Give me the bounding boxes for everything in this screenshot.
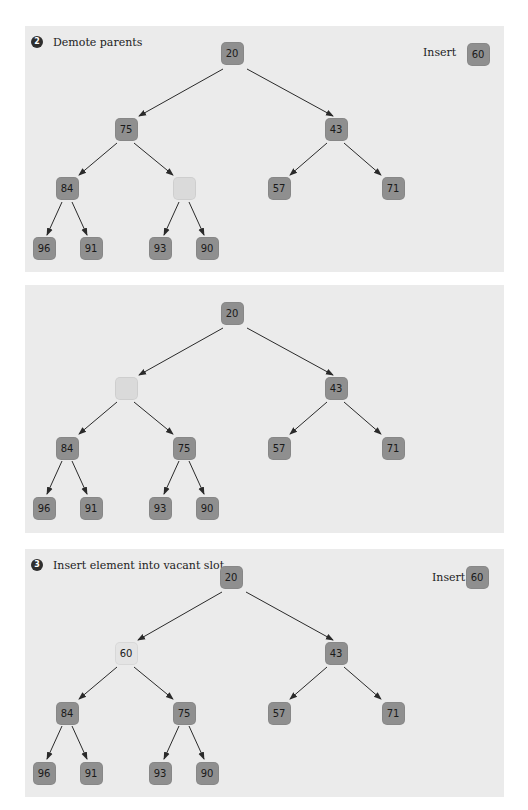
tree-node-l3-c: 93 (149, 237, 172, 260)
vacant-slot (173, 177, 196, 200)
tree-node-l3-a: 96 (33, 497, 56, 520)
tree-node-l3-b: 91 (80, 237, 103, 260)
tree-node-l2-d: 71 (382, 177, 405, 200)
tree-node-l1-right: 43 (325, 377, 348, 400)
tree-node-l3-d: 90 (196, 762, 219, 785)
step-number-badge: 3 (31, 559, 43, 571)
tree-node-l3-c: 93 (149, 497, 172, 520)
tree-node-l2-c: 57 (268, 702, 291, 725)
step-number-badge: 2 (31, 36, 43, 48)
tree-edges (25, 285, 504, 533)
tree-node-l2-d: 71 (382, 437, 405, 460)
insert-label: Insert (423, 46, 456, 59)
tree-node-l2-a: 84 (56, 702, 79, 725)
tree-node-l3-a: 96 (33, 762, 56, 785)
step-title: Insert element into vacant slot (53, 559, 224, 572)
panel-demote-parents: 2 Demote parents Insert 60 20 75 43 84 5… (25, 26, 504, 272)
tree-node-l2-b: 75 (173, 437, 196, 460)
tree-node-l2-a: 84 (56, 437, 79, 460)
tree-edges (25, 549, 504, 797)
vacant-slot (115, 377, 138, 400)
tree-edges (25, 26, 504, 272)
step-heading: 3 Insert element into vacant slot (31, 558, 224, 572)
tree-node-l2-d: 71 (382, 702, 405, 725)
tree-node-root: 20 (220, 566, 243, 589)
panel-insert-into-vacant-slot: 3 Insert element into vacant slot Insert… (25, 549, 504, 797)
tree-node-l3-b: 91 (80, 497, 103, 520)
tree-node-root: 20 (221, 302, 244, 325)
inserted-node: 60 (115, 642, 138, 665)
tree-node-l2-c: 57 (268, 177, 291, 200)
tree-node-l3-c: 93 (149, 762, 172, 785)
insert-value-node: 60 (467, 43, 490, 66)
tree-node-l1-right: 43 (325, 642, 348, 665)
tree-node-l2-c: 57 (268, 437, 291, 460)
tree-node-root: 20 (221, 42, 244, 65)
tree-node-l3-a: 96 (33, 237, 56, 260)
tree-node-l1-left: 75 (115, 118, 138, 141)
tree-node-l3-b: 91 (80, 762, 103, 785)
insert-label: Insert (432, 571, 465, 584)
step-title: Demote parents (53, 36, 142, 49)
insert-value-node: 60 (466, 566, 489, 589)
tree-node-l2-a: 84 (56, 177, 79, 200)
tree-node-l2-b: 75 (173, 702, 196, 725)
panel-intermediate: 20 43 84 75 57 71 96 91 93 90 (25, 285, 504, 533)
step-heading: 2 Demote parents (31, 35, 142, 49)
tree-node-l1-right: 43 (325, 118, 348, 141)
tree-node-l3-d: 90 (196, 237, 219, 260)
tree-node-l3-d: 90 (196, 497, 219, 520)
